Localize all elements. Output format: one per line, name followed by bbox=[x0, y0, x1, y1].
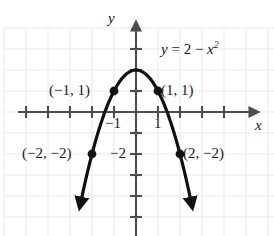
point-label-neg2-neg2: (−2, −2) bbox=[22, 146, 71, 161]
plotted-point bbox=[110, 87, 119, 96]
point-label-neg1-1: (−1, 1) bbox=[49, 83, 90, 98]
x-tick-label-neg1: −1 bbox=[105, 116, 121, 131]
equation-equals: = bbox=[171, 41, 179, 57]
coordinate-plane bbox=[0, 0, 274, 236]
point-label-1-1: (1, 1) bbox=[161, 83, 194, 98]
equation-label: y = 2 − x2 bbox=[161, 42, 219, 57]
y-axis-label: y bbox=[108, 11, 115, 26]
x-axis-label: x bbox=[255, 118, 262, 133]
plotted-point bbox=[88, 150, 97, 159]
x-tick-label-1: 1 bbox=[154, 116, 162, 131]
y-axis bbox=[130, 22, 142, 236]
parabola-figure: y x −1 1 −2 (−1, 1) (1, 1) (−2, −2) (2, … bbox=[0, 0, 274, 236]
equation-lhs: y bbox=[161, 41, 168, 57]
equation-exponent: 2 bbox=[214, 39, 219, 50]
equation-variable: x bbox=[207, 41, 214, 57]
point-label-2-neg2: (2, −2) bbox=[183, 146, 224, 161]
y-tick-label-neg2: −2 bbox=[110, 146, 126, 161]
x-axis bbox=[18, 106, 258, 118]
